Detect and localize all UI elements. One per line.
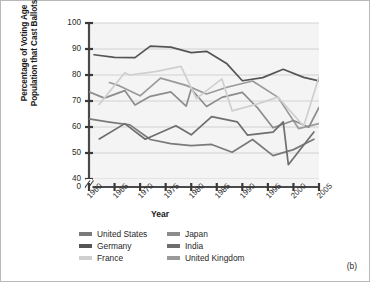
legend-item[interactable]: India (167, 240, 304, 252)
figure-panel: Percentage of Voting Age Population that… (0, 0, 370, 282)
y-tick-label: 0 (55, 182, 81, 191)
y-tick-label: 60 (55, 122, 81, 131)
legend-label: United States (97, 229, 147, 239)
legend-item[interactable]: Japan (167, 228, 304, 240)
legend-swatch-icon (79, 256, 92, 260)
y-tick-label: 50 (55, 148, 81, 157)
legend-label: Germany (97, 241, 131, 251)
legend-label: India (185, 241, 203, 251)
legend-item[interactable]: United States (79, 228, 167, 240)
legend-swatch-icon (167, 232, 180, 236)
legend-swatch-icon (167, 244, 180, 248)
legend-item[interactable]: France (79, 252, 167, 264)
panel-label: (b) (347, 261, 357, 271)
legend-swatch-icon (79, 232, 92, 236)
x-axis-title: Year (151, 209, 169, 219)
y-tick-label: 90 (55, 44, 81, 53)
legend-item[interactable]: Germany (79, 240, 167, 252)
chart-legend: United StatesJapanGermanyIndiaFranceUnit… (79, 228, 304, 264)
legend-label: United Kingdom (185, 253, 245, 263)
legend-swatch-icon (167, 256, 180, 260)
legend-item[interactable]: United Kingdom (167, 252, 304, 264)
y-tick-label: 70 (55, 96, 81, 105)
legend-label: Japan (185, 229, 208, 239)
y-tick-label: 80 (55, 70, 81, 79)
y-tick-label: 100 (55, 18, 81, 27)
legend-label: France (97, 253, 123, 263)
legend-swatch-icon (79, 244, 92, 248)
